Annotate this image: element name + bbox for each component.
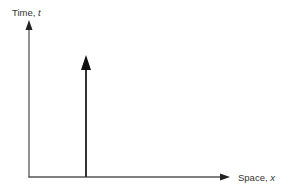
time-axis xyxy=(26,20,33,178)
time-axis-label: Time, t xyxy=(12,8,41,18)
time-axis-arrowhead-icon xyxy=(26,20,33,30)
space-axis-label-text: Space, xyxy=(238,172,270,183)
space-axis-variable: x xyxy=(270,172,275,183)
space-axis xyxy=(29,174,231,181)
space-axis-label: Space, x xyxy=(238,173,275,183)
worldline-arrowhead-icon xyxy=(81,55,91,70)
spacetime-diagram: Time, t Space, x xyxy=(0,0,289,190)
time-axis-label-text: Time, xyxy=(12,7,38,18)
diagram-svg xyxy=(0,0,289,190)
worldline-arrow xyxy=(81,55,91,177)
space-axis-arrowhead-icon xyxy=(220,174,230,181)
time-axis-variable: t xyxy=(38,7,41,18)
